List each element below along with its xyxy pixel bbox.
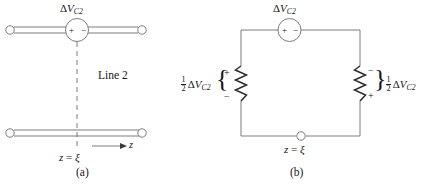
panel-a-position-eq: =: [66, 151, 72, 163]
panel-a-source-minus-sign: −: [81, 26, 86, 35]
panel-b-right-frac-den: 2: [386, 84, 391, 93]
panel-b-source-v: V: [280, 2, 287, 14]
terminal-bottom-right-icon: [138, 129, 146, 137]
panel-b-node-z: z: [284, 143, 288, 155]
panel-b-right-plus-sign: +: [368, 91, 374, 101]
panel-b-left-branch-label: 1 2 ΔVC2: [181, 76, 211, 94]
panel-b-right-v: V: [400, 78, 407, 90]
terminal-bottom-left-icon: [6, 129, 14, 137]
panel-b-left-plus-sign: +: [224, 68, 230, 78]
panel-b: ΔVC2 + − 1 2 ΔVC2 { + − − + } 1 2 ΔVC2: [216, 0, 433, 190]
panel-b-right-delta: Δ: [393, 78, 400, 90]
panel-b-right-sub: C2: [407, 83, 416, 92]
panel-a-caption: (a): [76, 167, 89, 179]
panel-b-left-sub: C2: [202, 83, 211, 92]
panel-b-left-frac-num: 1: [181, 76, 186, 84]
panel-b-right-frac-num: 1: [386, 76, 391, 84]
panel-b-node-xi: ξ: [300, 143, 305, 155]
panel-a-position-z: z: [59, 151, 63, 163]
figure-container: ΔVC2 + − Line 2 z = ξ z (a): [0, 0, 433, 190]
panel-b-right-branch-label: 1 2 ΔVC2: [386, 76, 416, 94]
terminal-top-right-icon: [138, 26, 146, 34]
panel-b-left-v: V: [195, 78, 202, 90]
panel-a: ΔVC2 + − Line 2 z = ξ z (a): [0, 0, 216, 190]
left-resistor-icon: [236, 66, 247, 101]
panel-b-right-brace: }: [374, 66, 386, 92]
panel-b-drawing: [216, 0, 433, 190]
panel-b-source-sub: C2: [287, 7, 296, 16]
panel-b-left-frac-den: 2: [181, 84, 186, 93]
terminal-top-left-icon: [6, 26, 14, 34]
panel-a-position-label: z = ξ: [59, 152, 80, 163]
panel-b-left-delta: Δ: [188, 78, 195, 90]
panel-a-source-label: ΔVC2: [60, 3, 83, 15]
panel-a-source-plus-sign: +: [69, 26, 74, 35]
z-axis-arrow-head: [120, 143, 127, 149]
panel-b-source-label: ΔVC2: [273, 3, 296, 15]
panel-b-source-plus-sign: +: [282, 26, 287, 35]
panel-b-node-eq: =: [291, 143, 297, 155]
panel-a-line-label: Line 2: [98, 70, 128, 82]
panel-b-caption: (b): [290, 167, 303, 179]
panel-a-axis-label: z: [129, 140, 133, 151]
panel-b-node-label: z = ξ: [284, 144, 305, 155]
panel-b-left-fraction: 1 2: [181, 76, 186, 94]
panel-b-right-fraction: 1 2: [386, 76, 391, 94]
panel-a-drawing: [0, 0, 216, 190]
panel-b-right-minus-sign: −: [368, 66, 374, 76]
right-resistor-icon: [355, 66, 366, 101]
panel-a-position-xi: ξ: [75, 151, 80, 163]
panel-a-source-sub: C2: [74, 7, 83, 16]
panel-b-source-minus-sign: −: [293, 26, 298, 35]
panel-b-left-minus-sign: −: [224, 92, 230, 102]
node-circle-icon: [297, 132, 305, 140]
panel-a-source-v: V: [67, 2, 74, 14]
